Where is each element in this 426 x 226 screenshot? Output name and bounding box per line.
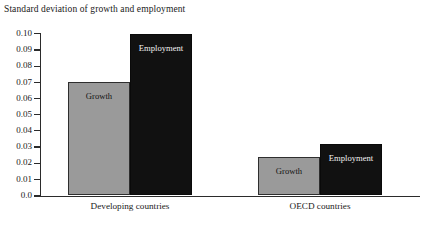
y-axis-tick: [34, 195, 41, 196]
y-axis-tick: [34, 82, 41, 83]
bar-label-growth: Growth: [259, 166, 319, 176]
y-axis-tick-label: 0.06: [2, 94, 32, 103]
x-axis-category-label-developing: Developing countries: [60, 201, 200, 212]
y-axis-tick: [34, 98, 41, 99]
y-axis-tick-label: 0.10: [2, 29, 32, 38]
y-axis-tick: [34, 114, 41, 115]
bar-employment-developing: Employment: [130, 34, 192, 196]
y-axis-tick: [34, 33, 41, 34]
y-axis-tick-label: 0.07: [2, 78, 32, 87]
bar-growth-oecd: Growth: [258, 157, 320, 196]
x-axis-line: [34, 196, 420, 198]
bar-employment-oecd: Employment: [320, 144, 382, 196]
bar-label-growth: Growth: [69, 91, 129, 101]
bar-label-employment: Employment: [131, 43, 191, 53]
y-axis-tick: [34, 49, 41, 50]
y-axis-tick-label: 0.02: [2, 158, 32, 167]
y-axis-tick-label: 0.05: [2, 110, 32, 119]
y-axis-tick-labels: 0.100.090.080.070.060.050.040.030.020.01…: [0, 0, 32, 226]
y-axis-tick: [34, 66, 41, 67]
bar-growth-developing: Growth: [68, 82, 130, 195]
y-axis-tick: [34, 163, 41, 164]
bar-label-employment: Employment: [321, 153, 381, 163]
y-axis-tick-label: 0.04: [2, 126, 32, 135]
y-axis-tick: [34, 130, 41, 131]
y-axis-tick-label: 0.08: [2, 61, 32, 70]
y-axis-tick: [34, 179, 41, 180]
y-axis-tick: [34, 146, 41, 147]
x-axis-category-label-oecd: OECD countries: [250, 201, 390, 212]
y-axis-tick-label: 0.0: [2, 191, 32, 200]
y-axis-tick-label: 0.03: [2, 142, 32, 151]
y-axis-tick-label: 0.09: [2, 45, 32, 54]
y-axis-tick-label: 0.01: [2, 175, 32, 184]
bar-chart-figure: Standard deviation of growth and employm…: [0, 0, 426, 226]
